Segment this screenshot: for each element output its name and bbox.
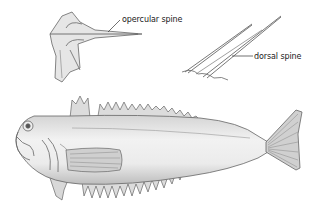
dorsal-spine-detail — [182, 16, 281, 80]
opercular-spine-label: opercular spine — [122, 15, 182, 24]
fish-diagram: opercular spine dorsal spine — [0, 0, 312, 211]
dorsal-spine-label: dorsal spine — [254, 52, 301, 61]
pectoral-fin — [66, 148, 122, 172]
diagram-drawing — [0, 0, 312, 211]
fish-body — [16, 115, 268, 184]
fish-body-group — [16, 96, 302, 200]
